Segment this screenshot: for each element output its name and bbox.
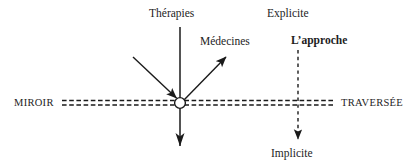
label-therapies: Thérapies [149,8,194,20]
label-implicite: Implicite [271,148,313,160]
mirror-axis-line [62,101,333,106]
medecines-diagonal-arrow [184,57,226,100]
label-explicite: Explicite [267,8,309,20]
diagram-vector-layer [0,0,417,166]
label-medecines: Médecines [200,36,250,48]
incoming-diagonal-arrow [133,57,177,98]
label-traversee: TRAVERSÉE [341,98,403,109]
crossing-node-circle [175,98,186,109]
label-miroir: MIROIR [14,98,54,109]
label-approche: L’approche [291,35,347,47]
diagram-canvas: Thérapies Médecines Explicite L’approche… [0,0,417,166]
